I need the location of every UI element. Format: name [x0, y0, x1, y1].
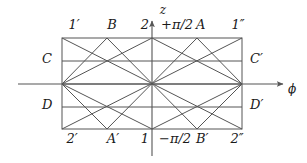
label-left-lower: D — [42, 98, 52, 111]
label-bottom-value-right: −π/2 — [159, 132, 191, 145]
label-left-upper: C — [42, 52, 52, 65]
label-bottom-right-corner: 2″ — [230, 132, 243, 145]
label-bottom-mid-left: A′ — [107, 132, 119, 145]
phi-axis-label: ϕ — [288, 83, 296, 95]
label-right-lower: D′ — [250, 98, 263, 111]
z-axis-label: z — [160, 4, 166, 16]
diagram-canvas — [0, 0, 307, 163]
label-top-mid-left: B — [107, 18, 117, 31]
label-top-center: 2 — [141, 18, 149, 31]
label-top-mid-right: A — [196, 18, 205, 31]
label-right-upper: C′ — [250, 52, 263, 65]
conformal-diagram-figure: 1′ B 2 +π/2 A 1″ C D C′ D′ 2′ A′ 1 −π/2 … — [0, 0, 307, 163]
label-top-right-corner: 1″ — [231, 18, 244, 31]
label-bottom-left-corner: 2′ — [66, 132, 77, 145]
label-top-left-corner: 1′ — [68, 18, 79, 31]
label-bottom-mid-right: B′ — [196, 132, 209, 145]
label-bottom-center: 1 — [141, 132, 149, 145]
label-top-value-right: +π/2 — [161, 18, 193, 31]
